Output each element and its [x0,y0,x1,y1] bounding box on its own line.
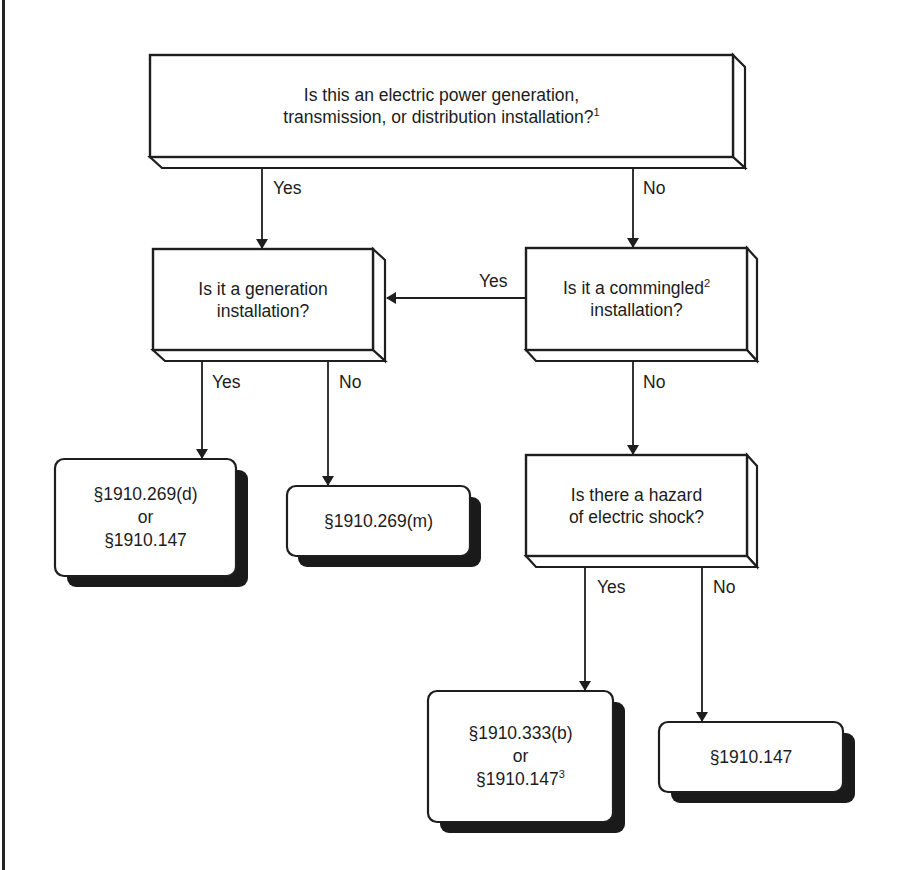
question-line-1: Is it a generation [198,278,327,300]
label-q3-no: No [643,372,665,392]
result-line-3: §1910.147 [476,769,559,789]
label-q3-yes: Yes [479,271,508,291]
result-269m: §1910.269(m) [287,486,470,556]
result-line-1: §1910.269(d) [93,483,197,506]
label-q2-yes: Yes [212,372,241,392]
question-line-2: of electric shock? [569,506,704,528]
result-line-2: or [138,506,154,529]
question-line-1: Is this an electric power generation, [304,85,579,105]
question-line-2: installation? [217,300,309,322]
result-269d-or-147: §1910.269(d) or §1910.147 [55,459,236,576]
label-q1-no: No [643,178,665,198]
result-333b-or-147: §1910.333(b) or §1910.1473 [428,691,613,822]
question-commingled: Is it a commingled2 installation? [526,248,747,350]
question-generation: Is it a generation installation? [153,249,373,350]
result-line-1: §1910.333(b) [468,722,572,745]
question-line-1: Is it a commingled [563,278,704,298]
label-q4-no: No [713,577,735,597]
question-line-2: transmission, or distribution installati… [283,107,593,127]
question-line-2: installation? [590,299,682,321]
footnote-marker: 2 [704,277,710,289]
result-line-1: §1910.147 [710,746,793,769]
question-installation-type: Is this an electric power generation, tr… [150,55,733,157]
result-line-3: §1910.147 [104,529,187,552]
footnote-marker: 3 [559,768,565,780]
result-147: §1910.147 [659,722,843,792]
question-shock-hazard: Is there a hazard of electric shock? [526,455,747,556]
question-line-1: Is there a hazard [571,484,702,506]
footnote-marker: 1 [594,106,600,118]
label-q2-no: No [339,372,361,392]
result-line-1: §1910.269(m) [324,510,433,533]
label-q1-yes: Yes [273,178,302,198]
label-q4-yes: Yes [597,577,626,597]
result-line-2: or [513,745,529,768]
